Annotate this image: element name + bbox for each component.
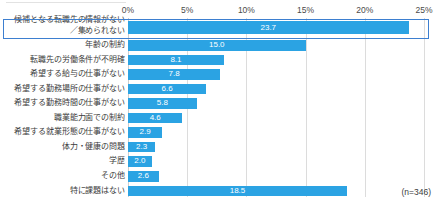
x-axis-tick-label: 5% (181, 5, 193, 16)
category-label: 希望する就業形態の仕事がない (3, 125, 125, 140)
bar-container: 8.1 (128, 55, 224, 66)
top-cut-rule (6, 2, 126, 3)
bar-container: 4.6 (128, 113, 182, 124)
category-label: 特に課題はない (3, 184, 125, 199)
bar-rows: 候補となる転職先の情報がない／集められない23.7年齢の制約15.0転職先の労働… (0, 18, 438, 198)
bar-value-label: 2.6 (128, 171, 159, 182)
bar-value-label: 8.1 (128, 55, 224, 66)
category-label: 学歴 (3, 154, 125, 169)
bar-container: 6.6 (128, 84, 206, 95)
category-label: 希望する給与の仕事がない (3, 67, 125, 82)
bar-row: 希望する給与の仕事がない7.8 (0, 67, 438, 82)
bar-value-label: 2.0 (128, 156, 152, 167)
bar-row: その他2.6 (0, 169, 438, 184)
bar-row: 体力・健康の問題2.3 (0, 140, 438, 155)
bar-value-label: 5.8 (128, 98, 197, 109)
bar-container: 15.0 (128, 40, 306, 51)
bar-row: 希望する就業形態の仕事がない2.9 (0, 125, 438, 140)
bar-value-label: 2.3 (128, 142, 155, 153)
bar-container: 2.0 (128, 156, 152, 167)
category-label: 転職先の労働条件が不明確 (3, 53, 125, 68)
category-label: その他 (3, 169, 125, 184)
bar-row: 転職先の労働条件が不明確8.1 (0, 53, 438, 68)
category-label: 職業能力面での制約 (3, 111, 125, 126)
bar-container: 2.6 (128, 171, 159, 182)
category-label: 体力・健康の問題 (3, 140, 125, 155)
bar-value-label: 4.6 (128, 113, 182, 124)
bar-value-label: 6.6 (128, 84, 206, 95)
bar-value-label: 15.0 (128, 40, 306, 51)
bar-container: 7.8 (128, 69, 220, 80)
horizontal-bar-chart: 0%5%10%15%20%25% 候補となる転職先の情報がない／集められない23… (0, 0, 438, 201)
bar-container: 2.3 (128, 142, 155, 153)
bar-row: 特に課題はない18.5 (0, 184, 438, 199)
x-axis-tick-label: 10% (238, 5, 255, 16)
x-axis-tick-label: 25% (415, 5, 432, 16)
sample-size-note: (n=346) (401, 187, 431, 198)
bar-container: 18.5 (128, 186, 347, 197)
category-label: 希望する勤務場所の仕事がない (3, 82, 125, 97)
x-axis-tick-label: 15% (297, 5, 314, 16)
bar-row: 年齢の制約15.0 (0, 38, 438, 53)
bar-container: 2.9 (128, 127, 162, 138)
bar-row: 希望する勤務時間の仕事がない5.8 (0, 96, 438, 111)
bar-value-label: 7.8 (128, 69, 220, 80)
bar-container: 5.8 (128, 98, 197, 109)
bar-value-label: 18.5 (128, 186, 347, 197)
bar-row: 職業能力面での制約4.6 (0, 111, 438, 126)
bar-value-label: 2.9 (128, 127, 162, 138)
x-axis-tick-label: 20% (356, 5, 373, 16)
bar-row: 学歴2.0 (0, 154, 438, 169)
category-label: 年齢の制約 (3, 38, 125, 53)
bar-row: 希望する勤務場所の仕事がない6.6 (0, 82, 438, 97)
category-label: 希望する勤務時間の仕事がない (3, 96, 125, 111)
highlight-box-top-row (3, 19, 429, 39)
